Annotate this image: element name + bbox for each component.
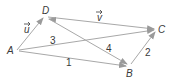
diagram-svg: A D C B u v 3 4 2 1 — [0, 0, 176, 81]
vector-a-to-c — [19, 30, 154, 50]
point-label-a: A — [6, 45, 14, 56]
vector-label-u: u — [24, 24, 30, 35]
vector-a-to-d — [17, 18, 43, 50]
vector-diagram: A D C B u v 3 4 2 1 — [0, 0, 176, 81]
point-label-d: D — [42, 5, 49, 16]
point-label-c: C — [158, 24, 166, 35]
edge-label-1: 1 — [66, 57, 72, 68]
vector-b-to-c — [131, 32, 155, 64]
edge-label-4: 4 — [106, 43, 112, 54]
point-label-b: B — [126, 68, 133, 79]
edge-label-3: 3 — [50, 35, 56, 46]
vector-c-to-d — [49, 19, 155, 31]
edge-label-2: 2 — [145, 47, 151, 58]
